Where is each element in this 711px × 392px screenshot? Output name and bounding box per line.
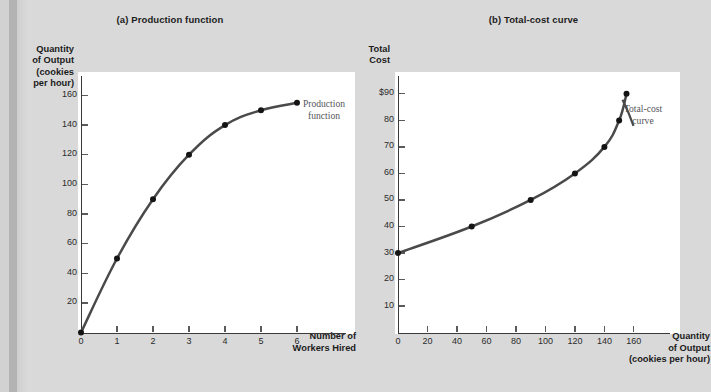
panel-b-y-tick-20 [399,279,405,280]
panel-a-y-tick-label-80: 80 [35,208,77,218]
panel-a-y-axis-title-line-2: of Output [0,55,74,66]
panel-b-x-tick-80 [515,326,516,332]
panel-a-y-tick-label-160: 160 [35,89,77,99]
panel-a-title: (a) Production function [0,14,348,25]
panel-b-y-tick-label-80: 80 [350,114,394,124]
panel-a-x-tick-label-0: 0 [69,336,93,346]
panel-a-y-tick-label-120: 120 [35,148,77,158]
panel-a-annotation-line-1: Production [293,98,355,110]
panel-b-y-axis-title-line-2: Cost [306,55,390,66]
panel-a-x-tick-4 [224,326,225,332]
panel-a-y-tick-20 [82,302,88,303]
panel-b-y-tick-label-30: 30 [350,247,394,257]
panel-b-x-tick-label-20: 20 [414,336,440,346]
panel-a-annotation-line-2: function [293,110,355,122]
panel-b-y-tick-70 [399,146,405,147]
panel-b-x-tick-160 [633,326,634,332]
panel-a-y-axis-line [81,76,82,334]
panel-a-y-tick-120 [82,154,88,155]
panel-a-y-axis-title-line-4: per hour) [0,78,74,89]
panel-b-y-tick-90 [399,93,405,94]
panel-a-y-axis-title-line-1: Quantity [0,44,74,55]
panel-b-x-tick-label-40: 40 [444,336,470,346]
panel-b-y-tick-label-90: $90 [350,87,394,97]
panel-a-x-tick-6 [296,326,297,332]
panel-b-y-axis-line [398,76,399,334]
panel-b-y-tick-10 [399,305,405,306]
panel-b-x-tick-140 [604,326,605,332]
panel-b-y-tick-label-50: 50 [350,193,394,203]
panel-b-y-tick-label-60: 60 [350,167,394,177]
panel-b-curve-annotation: Total-cost curve [612,103,674,127]
panel-b-x-tick-label-100: 100 [532,336,558,346]
figure-container: (a) Production function Quantity of Outp… [0,0,711,392]
panel-a-x-axis-line [81,333,346,334]
panel-a-y-tick-label-140: 140 [35,119,77,129]
panel-a-x-tick-3 [188,326,189,332]
panel-b-y-tick-80 [399,120,405,121]
panel-a-y-tick-60 [82,243,88,244]
panel-b-x-tick-20 [427,326,428,332]
panel-b-annotation-line-2: curve [612,115,674,127]
panel-a-y-axis-title: Quantity of Output (cookies per hour) [0,44,74,90]
panel-b-y-axis-title-line-1: Total [306,44,390,55]
panel-a-x-tick-label-5: 5 [249,336,273,346]
panel-a-x-tick-label-2: 2 [141,336,165,346]
panel-a-x-tick-label-3: 3 [177,336,201,346]
panel-b-y-tick-label-10: 10 [350,300,394,310]
panel-a-y-tick-label-60: 60 [35,237,77,247]
panel-a-x-tick-1 [116,326,117,332]
panel-b-x-axis-line [398,333,670,334]
panel-b-y-tick-label-20: 20 [350,273,394,283]
panel-a-y-tick-label-100: 100 [35,178,77,188]
panel-a-y-tick-label-20: 20 [35,296,77,306]
panel-b-y-tick-60 [399,173,405,174]
panel-b-x-tick-120 [574,326,575,332]
panel-a-y-tick-160 [82,95,88,96]
panel-a-x-tick-2 [152,326,153,332]
panel-a-curve-annotation: Production function [293,98,355,122]
panel-b-x-tick-label-60: 60 [473,336,499,346]
panel-b-x-tick-label-80: 80 [503,336,529,346]
panel-a-x-tick-label-6: 6 [285,336,309,346]
panel-b-y-tick-50 [399,199,405,200]
panel-b-annotation-line-1: Total-cost [612,103,674,115]
panel-a-x-tick-label-1: 1 [105,336,129,346]
panel-b-x-axis-title-line-3: (cookies per hour) [560,354,710,366]
panel-b-x-tick-label-120: 120 [562,336,588,346]
panel-b-y-axis-title: Total Cost [306,44,390,67]
panel-b-x-tick-100 [545,326,546,332]
panel-a-y-tick-label-40: 40 [35,267,77,277]
panel-a-x-tick-label-4: 4 [213,336,237,346]
panel-b-x-tick-40 [456,326,457,332]
panel-a-y-tick-100 [82,184,88,185]
panel-b-x-tick-60 [486,326,487,332]
panel-b-y-tick-40 [399,226,405,227]
panel-b-title: (b) Total-cost curve [356,14,711,25]
panel-a-y-tick-140 [82,124,88,125]
panel-b-x-tick-label-160: 160 [621,336,647,346]
panel-a-y-tick-80 [82,213,88,214]
panel-a-y-axis-title-line-3: (cookies [0,67,74,78]
panel-b-y-tick-30 [399,252,405,253]
panel-b-x-tick-label-140: 140 [591,336,617,346]
panel-a-y-tick-40 [82,273,88,274]
panel-b-y-tick-label-40: 40 [350,220,394,230]
panel-b-x-tick-label-0: 0 [385,336,411,346]
panel-b-y-tick-label-70: 70 [350,140,394,150]
panel-a-x-tick-5 [260,326,261,332]
